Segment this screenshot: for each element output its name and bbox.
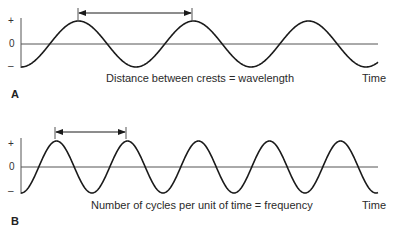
panel-b-time-label: Time — [362, 200, 386, 211]
panel-a-caption: Distance between crests = wavelength — [106, 73, 294, 84]
panel-a-minus-label: – — [8, 61, 14, 71]
panel-b-letter: B — [11, 216, 19, 227]
panel-a-letter: A — [11, 89, 19, 100]
panel-b-graphics — [21, 127, 378, 194]
panel-a-plus-label: + — [8, 16, 14, 26]
panel-a-zero-label: 0 — [9, 39, 15, 49]
panel-b-plus-label: + — [8, 139, 14, 149]
panel-b-zero-label: 0 — [9, 162, 15, 172]
panel-a-time-label: Time — [362, 73, 386, 84]
panel-a-graphics — [21, 8, 378, 68]
panel-b-caption: Number of cycles per unit of time = freq… — [91, 200, 313, 211]
wave-diagram — [0, 0, 393, 231]
panel-b-minus-label: – — [8, 186, 14, 196]
